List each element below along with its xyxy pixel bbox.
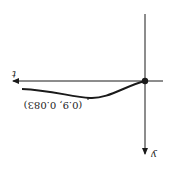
point-label: (0.9, 0.083) [24, 100, 83, 111]
t-axis-label: t [11, 69, 16, 80]
diagram-svg: t y (0.9, 0.083) [0, 0, 177, 170]
solution-curve [22, 81, 145, 98]
y-axis-label: y [151, 150, 158, 161]
diagram-canvas: t y (0.9, 0.083) [0, 0, 177, 170]
